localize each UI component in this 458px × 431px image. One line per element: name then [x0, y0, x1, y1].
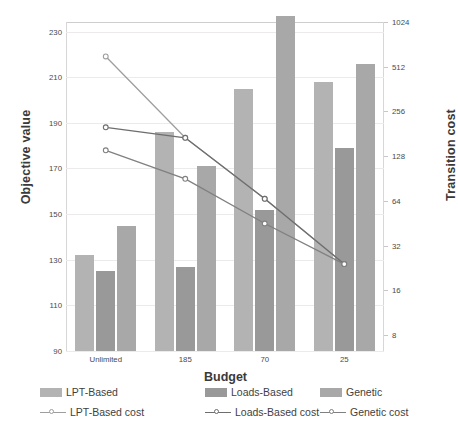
line-marker	[342, 262, 347, 267]
line-marker	[103, 54, 108, 59]
y-axis-right-tick-label: 128	[392, 152, 432, 161]
y-axis-left-title: Objective value	[19, 87, 33, 227]
x-axis-title: Budget	[0, 370, 451, 384]
legend-item-lpt-based[interactable]: LPT-Based	[40, 386, 118, 398]
y-axis-right-tick-mark	[384, 67, 388, 68]
y-axis-left-tick-label: 110	[22, 301, 62, 310]
y-axis-right-tick-mark	[384, 156, 388, 157]
line-marker	[183, 135, 188, 140]
line-genetic-cost	[106, 150, 345, 264]
y-axis-right-tick-mark	[384, 335, 388, 336]
x-axis-category-label: 185	[179, 355, 192, 364]
gridline	[66, 351, 384, 352]
line-marker	[183, 176, 188, 181]
legend-item-loads-based[interactable]: Loads-Based	[205, 386, 293, 398]
y-axis-left-tick-label: 230	[22, 27, 62, 36]
legend-item-genetic[interactable]: Genetic	[320, 386, 382, 398]
y-axis-right-tick-label: 16	[392, 286, 432, 295]
legend-swatch-icon	[205, 388, 227, 397]
y-axis-left-tick-label: 210	[22, 73, 62, 82]
legend-line-marker-icon	[205, 407, 231, 417]
y-axis-right-title: Transition cost	[444, 85, 458, 225]
y-axis-left-tick-label: 190	[22, 118, 62, 127]
legend-item-loads-based-cost[interactable]: Loads-Based cost	[205, 406, 319, 418]
legend-row-bars: LPT-BasedLoads-BasedGenetic	[0, 386, 451, 406]
line-marker	[103, 125, 108, 130]
line-marker	[262, 221, 267, 226]
legend-label: Genetic cost	[350, 406, 408, 418]
y-axis-right-tick-label: 512	[392, 62, 432, 71]
y-axis-left-tick-label: 150	[22, 210, 62, 219]
x-axis-category-label: Unlimited	[90, 355, 123, 364]
y-axis-right-tick-label: 256	[392, 107, 432, 116]
line-loads-based-cost	[106, 127, 345, 264]
plot-area: 90110130150170190210230 8163264128256512…	[66, 22, 384, 351]
legend-label: LPT-Based cost	[70, 406, 144, 418]
legend-item-genetic-cost[interactable]: Genetic cost	[320, 406, 408, 418]
line-marker	[103, 148, 108, 153]
y-axis-right-tick-mark	[384, 22, 388, 23]
y-axis-right-tick-label: 32	[392, 241, 432, 250]
x-axis-category-label: 70	[260, 355, 269, 364]
legend-label: Loads-Based cost	[235, 406, 319, 418]
lines-layer	[66, 22, 384, 351]
y-axis-right-tick-mark	[384, 201, 388, 202]
legend-item-lpt-based-cost[interactable]: LPT-Based cost	[40, 406, 144, 418]
legend-line-marker-icon	[320, 407, 346, 417]
y-axis-right-tick-label: 1024	[392, 18, 432, 27]
legend-label: Genetic	[346, 386, 382, 398]
y-axis-right-tick-label: 8	[392, 330, 432, 339]
y-axis-right-tick-mark	[384, 111, 388, 112]
y-axis-right-tick-mark	[384, 290, 388, 291]
legend-swatch-icon	[320, 388, 342, 397]
legend-label: Loads-Based	[231, 386, 293, 398]
legend-line-marker-icon	[40, 407, 66, 417]
line-marker	[262, 196, 267, 201]
x-axis-category-label: 25	[340, 355, 349, 364]
legend-label: LPT-Based	[66, 386, 118, 398]
y-axis-right-tick-mark	[384, 246, 388, 247]
line-lpt-based-cost	[106, 56, 345, 264]
y-axis-left-tick-label: 90	[22, 347, 62, 356]
y-axis-left-tick-label: 170	[22, 164, 62, 173]
legend-swatch-icon	[40, 388, 62, 397]
legend-row-lines: LPT-Based costLoads-Based costGenetic co…	[0, 406, 451, 426]
y-axis-right-tick-label: 64	[392, 196, 432, 205]
legend: LPT-BasedLoads-BasedGenetic LPT-Based co…	[0, 386, 451, 426]
y-axis-left-tick-label: 130	[22, 255, 62, 264]
